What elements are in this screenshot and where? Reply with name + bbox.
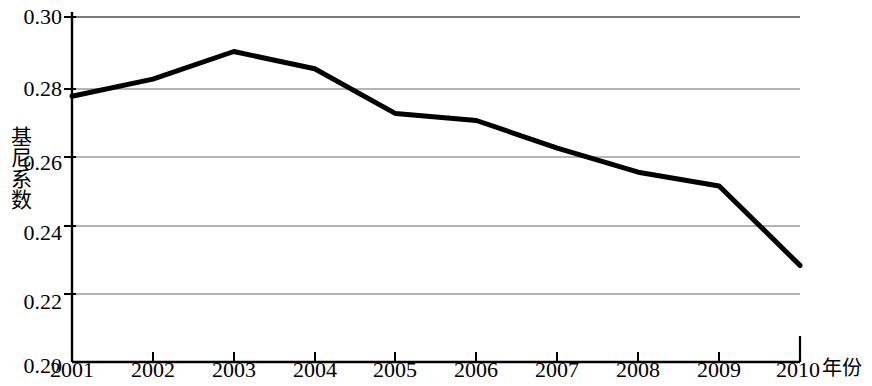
x-axis-title: 年份 [822, 356, 862, 380]
x-axis-tick-label-group: 2001 2002 2003 2004 2005 2006 2007 2008 … [0, 358, 872, 386]
x-tick-label: 2003 [199, 358, 269, 382]
x-tick-label: 2002 [118, 358, 188, 382]
gridline-group [72, 17, 800, 294]
y-tick-mark-group [64, 17, 76, 294]
x-tick-label: 2006 [441, 358, 511, 382]
plot-area [0, 0, 872, 386]
gini-coefficient-line-chart: 基尼系数 0.30 0.28 0.26 0.24 0.22 0.20 [0, 0, 872, 386]
x-tick-label: 2005 [360, 358, 430, 382]
x-tick-label: 2007 [522, 358, 592, 382]
x-tick-label: 2009 [684, 358, 754, 382]
x-tick-label: 2001 [37, 358, 107, 382]
x-tick-label: 2004 [280, 358, 350, 382]
data-series-line [72, 52, 800, 266]
x-tick-label: 2008 [603, 358, 673, 382]
